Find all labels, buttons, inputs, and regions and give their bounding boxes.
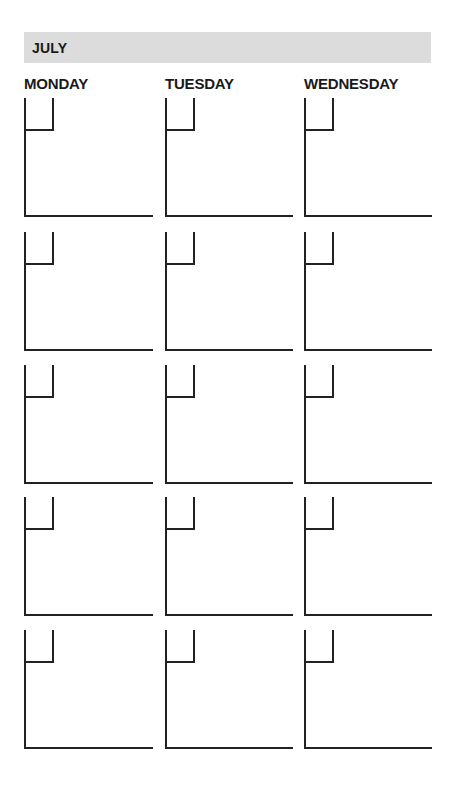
date-box[interactable]	[24, 497, 54, 530]
date-box[interactable]	[304, 630, 334, 663]
date-box[interactable]	[165, 497, 195, 530]
day-cell-week4-wednesday[interactable]	[304, 497, 432, 616]
cell-bottom-border	[304, 349, 432, 351]
date-box[interactable]	[165, 365, 195, 398]
cell-bottom-border	[24, 482, 153, 484]
day-cell-week3-wednesday[interactable]	[304, 365, 432, 484]
date-box[interactable]	[304, 365, 334, 398]
cell-bottom-border	[165, 482, 293, 484]
day-cell-week5-monday[interactable]	[24, 630, 153, 749]
date-box[interactable]	[304, 232, 334, 265]
cell-bottom-border	[165, 349, 293, 351]
cell-bottom-border	[304, 215, 432, 217]
day-cell-week3-monday[interactable]	[24, 365, 153, 484]
day-cell-week5-wednesday[interactable]	[304, 630, 432, 749]
date-box[interactable]	[24, 232, 54, 265]
day-header-wednesday: WEDNESDAY	[304, 75, 398, 92]
day-cell-week5-tuesday[interactable]	[165, 630, 293, 749]
month-label: JULY	[32, 40, 67, 56]
day-cell-week2-tuesday[interactable]	[165, 232, 293, 351]
cell-bottom-border	[304, 747, 432, 749]
cell-bottom-border	[165, 614, 293, 616]
date-box[interactable]	[24, 365, 54, 398]
cell-bottom-border	[24, 747, 153, 749]
date-box[interactable]	[24, 630, 54, 663]
date-box[interactable]	[24, 98, 54, 131]
date-box[interactable]	[165, 98, 195, 131]
cell-bottom-border	[304, 482, 432, 484]
day-header-tuesday: TUESDAY	[165, 75, 234, 92]
date-box[interactable]	[165, 630, 195, 663]
cell-bottom-border	[24, 349, 153, 351]
cell-bottom-border	[304, 614, 432, 616]
date-box[interactable]	[304, 98, 334, 131]
day-header-monday: MONDAY	[24, 75, 88, 92]
date-box[interactable]	[165, 232, 195, 265]
cell-bottom-border	[24, 215, 153, 217]
day-cell-week1-monday[interactable]	[24, 98, 153, 217]
date-box[interactable]	[304, 497, 334, 530]
day-cell-week4-monday[interactable]	[24, 497, 153, 616]
day-cell-week1-wednesday[interactable]	[304, 98, 432, 217]
cell-bottom-border	[24, 614, 153, 616]
day-cell-week4-tuesday[interactable]	[165, 497, 293, 616]
cell-bottom-border	[165, 747, 293, 749]
cell-bottom-border	[165, 215, 293, 217]
month-banner: JULY	[24, 32, 431, 63]
day-cell-week1-tuesday[interactable]	[165, 98, 293, 217]
day-cell-week2-monday[interactable]	[24, 232, 153, 351]
day-cell-week3-tuesday[interactable]	[165, 365, 293, 484]
day-cell-week2-wednesday[interactable]	[304, 232, 432, 351]
